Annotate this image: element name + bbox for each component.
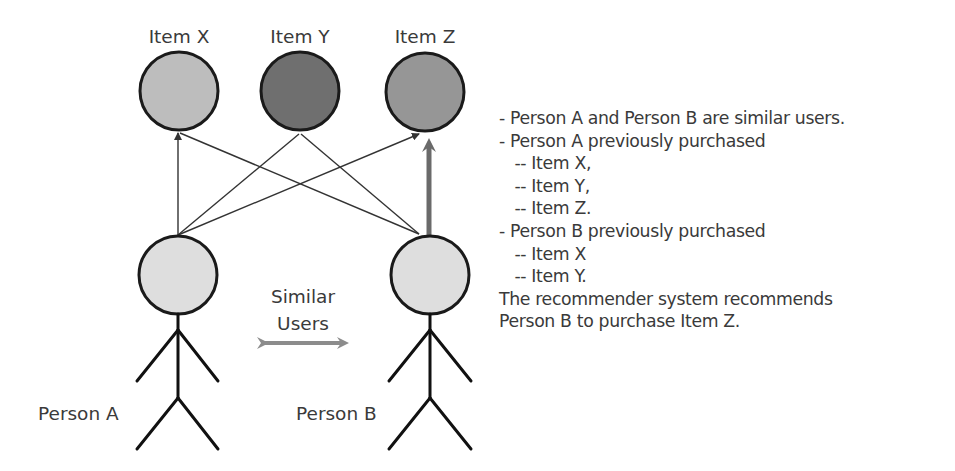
explanation-line: -- Item Z. (499, 197, 845, 220)
person-a-left-arm (137, 330, 178, 381)
item-x-circle (140, 52, 218, 130)
explanation-line: -- Item X (499, 243, 845, 266)
explanation-line: - Person A previously purchased (499, 130, 845, 153)
edges-person-a (178, 133, 419, 235)
person-b-figure (389, 236, 471, 449)
edge-a-to-y (178, 134, 299, 235)
explanation-line: -- Item Y, (499, 175, 845, 198)
person-b-head (391, 236, 469, 314)
item-z-label: Item Z (395, 26, 456, 47)
explanation-line: Person B to purchase Item Z. (499, 310, 845, 333)
item-node-z: Item Z (386, 26, 464, 131)
person-a-figure (137, 236, 218, 449)
explanation-text: - Person A and Person B are similar user… (499, 107, 845, 333)
person-b-right-leg (430, 398, 471, 449)
item-x-label: Item X (149, 26, 210, 47)
person-b-right-arm (430, 330, 471, 381)
explanation-line: - Person A and Person B are similar user… (499, 107, 845, 130)
explanation-line: The recommender system recommends (499, 288, 845, 311)
item-node-x: Item X (140, 26, 218, 130)
person-a-left-leg (137, 398, 178, 449)
item-y-circle (261, 52, 339, 130)
item-z-circle (386, 53, 464, 131)
person-b-left-arm (389, 330, 430, 381)
explanation-line: -- Item X, (499, 152, 845, 175)
person-a-head (139, 236, 217, 314)
similar-users-line2: Users (277, 313, 329, 334)
similar-users-line1: Similar (271, 286, 336, 307)
edge-b-to-y (301, 134, 419, 234)
explanation-line: - Person B previously purchased (499, 220, 845, 243)
similar-users-relation: Similar Users (263, 286, 343, 343)
explanation-line: -- Item Y. (499, 265, 845, 288)
person-a-right-arm (178, 330, 218, 381)
edge-a-to-z (178, 134, 419, 235)
person-a-label: Person A (38, 403, 119, 424)
person-b-label: Person B (296, 403, 377, 424)
person-b-left-leg (389, 398, 430, 449)
item-node-y: Item Y (261, 26, 339, 130)
person-a-right-leg (178, 398, 218, 449)
item-y-label: Item Y (270, 26, 330, 47)
